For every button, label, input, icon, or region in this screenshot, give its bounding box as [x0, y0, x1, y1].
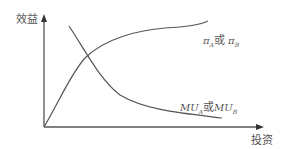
x-axis-label: 投资	[251, 133, 273, 147]
mu-curve	[69, 26, 222, 118]
y-axis-arrow-icon	[41, 14, 47, 22]
mu-curve-label: MUA或MUB	[179, 101, 238, 115]
y-axis-label: 效益	[16, 12, 38, 26]
diagram-canvas: 效益 投资 πA或 πB MUA或MUB	[0, 0, 287, 149]
x-axis-arrow-icon	[256, 124, 264, 130]
pi-curve-label: πA或 πB	[202, 34, 240, 48]
